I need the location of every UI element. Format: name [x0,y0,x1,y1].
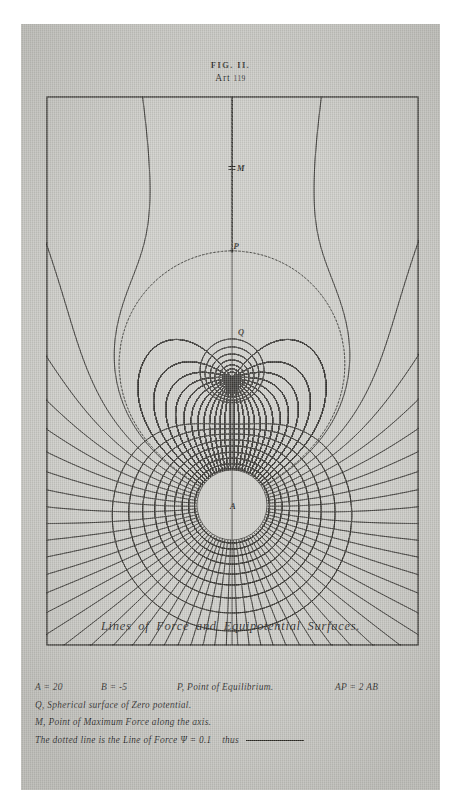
line-of-force [265,354,418,493]
line-of-force [47,357,199,493]
legend-row-2: Q, Spherical surface of Zero potential. [35,697,427,715]
line-of-force [139,399,203,485]
label-p: P [234,241,240,251]
figure-caption: Lines of Force and Equipotential Surface… [21,619,440,634]
line-of-force [261,396,326,485]
legend-charge-a: A = 20 [35,679,101,697]
line-of-force [47,514,198,540]
line-of-force [47,243,200,490]
label-a: A [229,501,236,511]
legend-point-p: P, Point of Equilibrium. [177,679,335,697]
legend-row-1: A = 20 B = -5 P, Point of Equilibrium. A… [35,679,427,697]
line-of-force [138,396,203,485]
line-of-force [266,399,418,495]
line-of-force [263,522,418,593]
dotted-sample-rule [246,740,304,741]
field-diagram: A B P Q M [21,24,440,790]
legend-row-4: The dotted line is the Line of Force Ψ =… [35,732,427,750]
label-m: M [236,163,245,173]
line-of-force [263,522,418,593]
legend-dotted-psi: Ψ = 0.1 [180,735,211,745]
legend-relation-ap: AP = 2 AB [335,679,427,697]
line-of-force [268,489,418,506]
line-of-force [242,427,249,469]
line-of-force [47,522,201,593]
line-of-force [266,514,418,540]
label-b: B [230,380,237,390]
legend-row-3: M, Point of Maximum Force along the axis… [35,714,427,732]
line-of-force [47,490,196,506]
line-of-force [263,97,350,487]
figure-legend: A = 20 B = -5 P, Point of Equilibrium. A… [35,679,427,749]
line-of-force [267,428,418,497]
legend-charge-b: B = -5 [101,679,177,697]
line-of-force [47,472,196,504]
line-of-force [267,512,418,524]
line-of-force [47,522,201,593]
line-of-force [47,243,200,490]
line-of-force [114,97,201,487]
line-of-force [268,471,418,503]
line-of-force [215,427,222,469]
diagram-frame [47,97,418,645]
line-of-force [264,240,418,490]
line-of-force [267,507,418,512]
engraved-plate: FIG. II. Art 119 A B P Q M Lines of Forc… [21,24,440,790]
label-q: Q [238,327,244,337]
legend-dotted-pre: The dotted line is the Line of Force [35,735,177,745]
line-of-force [264,241,418,490]
legend-dotted-post: thus [222,735,239,745]
line-of-force [261,399,325,485]
